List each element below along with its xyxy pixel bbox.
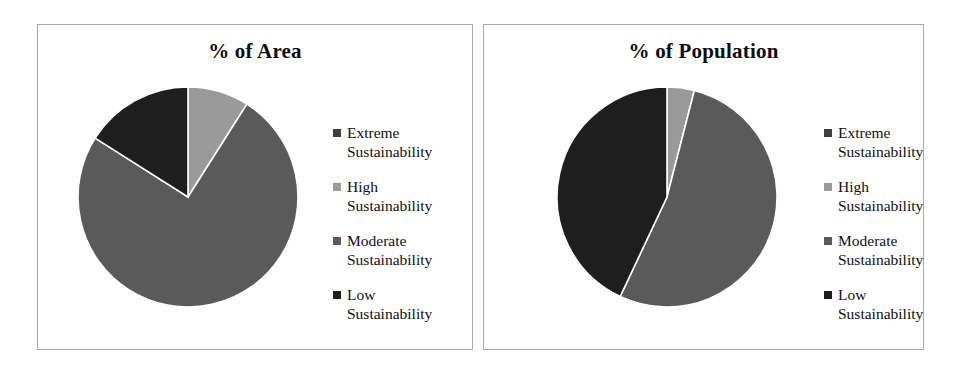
figure-root: % of Area Extreme Sustainability High Su… xyxy=(0,0,961,374)
chart-title-area: % of Area xyxy=(38,39,472,64)
legend-item-low[interactable]: Low Sustainability xyxy=(333,285,469,323)
legend-label-low: Low Sustainability xyxy=(838,285,923,323)
legend-swatch-low-icon xyxy=(333,291,341,299)
chart-body-area: Extreme Sustainability High Sustainabili… xyxy=(38,73,472,349)
legend-swatch-extreme-icon xyxy=(824,129,832,137)
pie-chart-area xyxy=(76,85,300,309)
legend-label-moderate: Moderate Sustainability xyxy=(838,231,923,269)
legend-item-low[interactable]: Low Sustainability xyxy=(824,285,960,323)
legend-label-low: Low Sustainability xyxy=(347,285,432,323)
legend-item-high[interactable]: High Sustainability xyxy=(824,177,960,215)
legend-label-extreme: Extreme Sustainability xyxy=(347,123,432,161)
chart-panel-area: % of Area Extreme Sustainability High Su… xyxy=(37,24,473,350)
legend-item-moderate[interactable]: Moderate Sustainability xyxy=(824,231,960,269)
pie-svg-population xyxy=(555,85,779,309)
legend-swatch-high-icon xyxy=(824,183,832,191)
legend-item-extreme[interactable]: Extreme Sustainability xyxy=(824,123,960,161)
legend-label-high: High Sustainability xyxy=(347,177,432,215)
legend-swatch-extreme-icon xyxy=(333,129,341,137)
legend-item-moderate[interactable]: Moderate Sustainability xyxy=(333,231,469,269)
legend-swatch-moderate-icon xyxy=(333,237,341,245)
legend-item-extreme[interactable]: Extreme Sustainability xyxy=(333,123,469,161)
legend-swatch-moderate-icon xyxy=(824,237,832,245)
chart-body-population: Extreme Sustainability High Sustainabili… xyxy=(484,73,923,349)
legend-label-extreme: Extreme Sustainability xyxy=(838,123,923,161)
chart-title-population: % of Population xyxy=(484,39,923,64)
chart-panel-population: % of Population Extreme Sustainability H… xyxy=(483,24,924,350)
legend-item-high[interactable]: High Sustainability xyxy=(333,177,469,215)
pie-chart-population xyxy=(555,85,779,309)
legend-area: Extreme Sustainability High Sustainabili… xyxy=(333,123,469,339)
legend-swatch-high-icon xyxy=(333,183,341,191)
legend-swatch-low-icon xyxy=(824,291,832,299)
legend-label-high: High Sustainability xyxy=(838,177,923,215)
pie-svg-area xyxy=(76,85,300,309)
legend-population: Extreme Sustainability High Sustainabili… xyxy=(824,123,960,339)
legend-label-moderate: Moderate Sustainability xyxy=(347,231,432,269)
